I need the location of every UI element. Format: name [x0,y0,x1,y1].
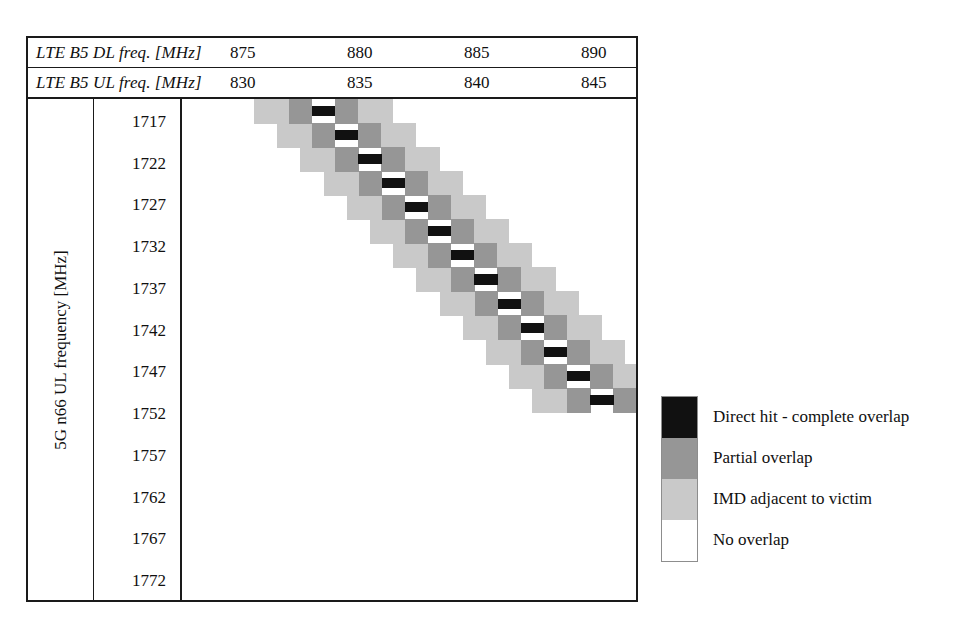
legend-label: Partial overlap [713,448,813,468]
cell-direct-hit [521,323,544,333]
cell-partial-overlap [335,147,358,172]
y-axis-title-column: 5G n66 UL frequency [MHz] [28,99,94,600]
cell-partial-overlap [451,267,474,292]
cell-direct-hit [335,130,358,140]
cell-partial-overlap [381,147,404,172]
cell-direct-hit [544,347,567,357]
cell-imd-adjacent [300,147,323,172]
cell-imd-adjacent [486,219,509,244]
cell-imd-adjacent [463,195,486,220]
legend-swatch-stack [661,396,698,562]
legend-label: No overlap [713,530,789,550]
cell-direct-hit [405,202,428,212]
cell-partial-overlap [405,171,428,196]
y-tick-label: 1772 [132,571,166,591]
legend-item-direct-hit: Direct hit - complete overlap [713,396,909,437]
cell-partial-overlap [567,388,590,413]
cell-partial-overlap [451,219,474,244]
legend-item-imd-adjacent: IMD adjacent to victim [713,478,909,519]
heatmap-plot-area [182,99,636,600]
cell-partial-overlap [474,243,497,268]
cell-partial-overlap [544,315,567,340]
cell-partial-overlap [359,171,382,196]
cell-partial-overlap [567,340,590,365]
cell-imd-adjacent [486,340,509,365]
cell-partial-overlap [358,123,381,148]
legend-item-no-overlap: No overlap [713,519,909,560]
header-tick-dl-3: 890 [581,43,607,63]
header-row-dl: LTE B5 DL freq. [MHz] 875 880 885 890 [28,38,636,68]
header-tick-dl-0: 875 [230,43,256,63]
cell-imd-adjacent [277,123,300,148]
cell-imd-adjacent [347,195,370,220]
y-tick-label-column: 1717172217271732173717421747175217571762… [94,99,182,600]
cell-partial-overlap [521,340,544,365]
matrix-frame: LTE B5 DL freq. [MHz] 875 880 885 890 LT… [26,36,638,602]
y-tick-label: 1742 [132,321,166,341]
legend-label-stack: Direct hit - complete overlapPartial ove… [713,396,909,560]
cell-direct-hit [567,371,590,381]
cell-imd-adjacent [393,123,416,148]
cell-direct-hit [358,154,381,164]
header-tick-dl-1: 880 [347,43,373,63]
cell-partial-overlap [497,267,520,292]
cell-imd-adjacent [579,315,602,340]
y-tick-label: 1737 [132,279,166,299]
y-tick-label: 1722 [132,154,166,174]
matrix-body: 5G n66 UL frequency [MHz] 17171722172717… [28,99,636,600]
cell-imd-adjacent [440,171,463,196]
header-tick-ul-1: 835 [347,73,373,93]
cell-direct-hit [451,250,474,260]
y-tick-label: 1757 [132,446,166,466]
cell-direct-hit [498,299,521,309]
legend-swatch-partial-overlap [662,438,697,479]
cell-direct-hit [382,178,405,188]
cell-partial-overlap [289,99,312,124]
cell-imd-adjacent [463,315,486,340]
cell-partial-overlap [382,195,405,220]
cell-partial-overlap [521,291,544,316]
cell-direct-hit [590,395,613,405]
cell-imd-adjacent [324,171,347,196]
header-label-ul: LTE B5 UL freq. [MHz] [36,73,202,93]
y-tick-label: 1762 [132,488,166,508]
cell-partial-overlap [590,364,613,389]
cell-imd-adjacent [532,388,555,413]
legend-item-partial-overlap: Partial overlap [713,437,909,478]
cell-partial-overlap [428,243,451,268]
cell-partial-overlap [475,291,498,316]
header-tick-ul-3: 845 [581,73,607,93]
cell-imd-adjacent [625,364,636,389]
y-tick-label: 1727 [132,195,166,215]
cell-partial-overlap [405,219,428,244]
cell-direct-hit [474,274,497,284]
imd-overlap-figure: LTE B5 DL freq. [MHz] 875 880 885 890 LT… [0,0,971,642]
cell-imd-adjacent [370,99,393,124]
cell-imd-adjacent [556,291,579,316]
header-row-ul: LTE B5 UL freq. [MHz] 830 835 840 845 [28,68,636,97]
y-tick-label: 1752 [132,404,166,424]
cell-imd-adjacent [440,291,463,316]
y-tick-label: 1747 [132,362,166,382]
frequency-header-band: LTE B5 DL freq. [MHz] 875 880 885 890 LT… [28,38,636,99]
cell-imd-adjacent [370,219,393,244]
header-tick-ul-2: 840 [464,73,490,93]
cell-imd-adjacent [532,267,555,292]
y-tick-label: 1767 [132,529,166,549]
cell-partial-overlap [613,388,636,413]
cell-direct-hit [428,226,451,236]
legend-swatch-direct-hit [662,397,697,438]
cell-imd-adjacent [509,364,532,389]
header-tick-ul-0: 830 [230,73,256,93]
legend-swatch-no-overlap [662,520,697,561]
y-tick-label: 1717 [132,112,166,132]
y-tick-label: 1732 [132,237,166,257]
cell-imd-adjacent [602,340,625,365]
legend-swatch-imd-adjacent [662,479,697,520]
cell-imd-adjacent [416,267,439,292]
legend-label: IMD adjacent to victim [713,489,872,509]
header-label-dl: LTE B5 DL freq. [MHz] [36,43,202,63]
cell-partial-overlap [544,364,567,389]
cell-direct-hit [312,106,335,116]
cell-imd-adjacent [393,243,416,268]
